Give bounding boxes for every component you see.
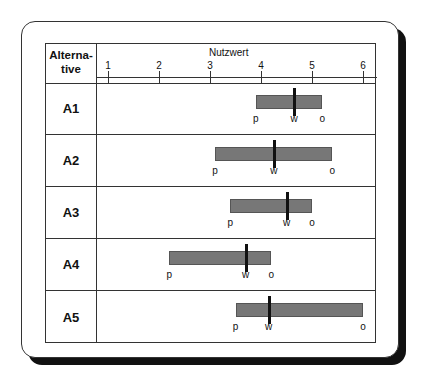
axis-tick-label: 5 — [309, 60, 315, 71]
marker-label-o: o — [319, 113, 325, 124]
axis-tick — [261, 71, 262, 83]
alternative-row: A1pwo — [46, 83, 375, 135]
axis-title: Nutzwert — [209, 47, 248, 58]
alternative-header-line2: tive — [46, 62, 96, 76]
alternative-row: A4pwo — [46, 239, 375, 291]
marker-label-o: o — [360, 321, 366, 332]
range-bar — [236, 303, 364, 317]
axis-tick-label: 6 — [360, 60, 366, 71]
alternative-header: Alterna- tive — [46, 48, 96, 76]
likely-value-marker — [293, 88, 296, 116]
marker-label-o: o — [268, 269, 274, 280]
axis-tick — [159, 71, 160, 83]
axis-tick-label: 4 — [258, 60, 264, 71]
alternative-header-line1: Alterna- — [46, 48, 96, 62]
alternative-row: A2pwo — [46, 135, 375, 187]
marker-label-w: w — [283, 217, 290, 228]
marker-label-w: w — [270, 165, 277, 176]
marker-label-p: p — [253, 113, 259, 124]
marker-label-w: w — [242, 269, 249, 280]
alternative-label: A1 — [46, 83, 96, 134]
likely-value-marker — [286, 192, 289, 220]
marker-label-p: p — [233, 321, 239, 332]
likely-value-marker — [245, 244, 248, 272]
axis-tick — [210, 71, 211, 83]
alternative-label: A2 — [46, 135, 96, 186]
axis-tick — [108, 71, 109, 83]
likely-value-marker — [268, 296, 271, 324]
alternative-label: A3 — [46, 187, 96, 238]
alternative-row: A3pwo — [46, 187, 375, 239]
axis-line — [97, 77, 377, 78]
axis-tick — [363, 71, 364, 83]
marker-label-o: o — [330, 165, 336, 176]
axis-tick-label: 3 — [207, 60, 213, 71]
axis-tick-label: 1 — [105, 60, 111, 71]
alternative-row: A5pwo — [46, 291, 375, 343]
nutzwert-table: Alterna- tive Nutzwert 123456 A1pwoA2pwo… — [45, 43, 376, 343]
alternative-label: A5 — [46, 291, 96, 343]
alternative-label: A4 — [46, 239, 96, 290]
marker-label-p: p — [228, 217, 234, 228]
axis-tick — [312, 71, 313, 83]
range-bar — [169, 251, 271, 265]
range-bar — [230, 199, 312, 213]
marker-label-w: w — [291, 113, 298, 124]
likely-value-marker — [273, 140, 276, 168]
marker-label-o: o — [309, 217, 315, 228]
marker-label-p: p — [166, 269, 172, 280]
axis-tick-label: 2 — [156, 60, 162, 71]
marker-label-w: w — [265, 321, 272, 332]
marker-label-p: p — [212, 165, 218, 176]
header-row: Alterna- tive Nutzwert 123456 — [46, 44, 375, 84]
range-bar — [256, 95, 322, 109]
